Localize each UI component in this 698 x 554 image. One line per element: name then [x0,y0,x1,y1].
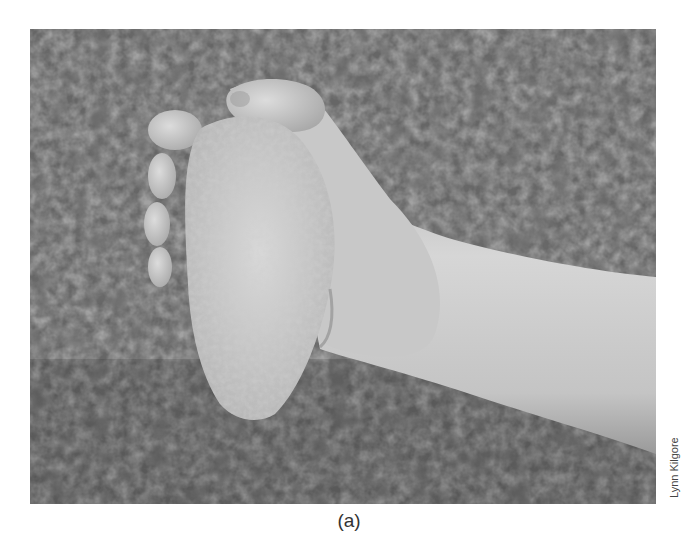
photo-hand-holding-handaxe [30,29,656,504]
photo-credit: Lynn Kilgore [668,437,680,498]
figure-caption: (a) [0,510,698,532]
